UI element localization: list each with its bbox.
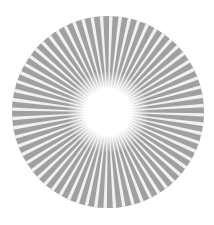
starburst-graphic [0, 0, 214, 225]
center-glow [66, 70, 149, 153]
